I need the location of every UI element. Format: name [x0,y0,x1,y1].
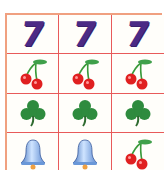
reel-cell-r3-c0[interactable] [7,133,59,170]
clover-icon [18,98,48,128]
cherry-icon [121,137,155,171]
reel-cell-r3-c2[interactable] [112,133,164,170]
reel-cell-r1-c0[interactable] [7,54,59,94]
reel-cell-r2-c2[interactable] [112,94,164,133]
cherry-icon [16,57,50,91]
reel-cell-r0-c2[interactable]: 7 [112,15,164,54]
seven-symbol: 7 [18,17,46,51]
bell-icon [18,137,48,171]
reel-cell-r2-c0[interactable] [7,94,59,133]
reel-cell-r1-c1[interactable] [59,54,112,94]
clover-icon [123,98,153,128]
reel-cell-r2-c1[interactable] [59,94,112,133]
slot-reel-grid: 7 7 7 [5,13,162,170]
bell-icon [70,137,100,171]
reel-cell-r0-c1[interactable]: 7 [59,15,112,54]
reel-cell-r0-c0[interactable]: 7 [7,15,59,54]
reel-cell-r1-c2[interactable] [112,54,164,94]
reel-cell-r3-c1[interactable] [59,133,112,170]
cherry-icon [68,57,102,91]
cherry-icon [121,57,155,91]
clover-icon [70,98,100,128]
seven-symbol: 7 [124,17,152,51]
seven-symbol: 7 [71,17,99,51]
